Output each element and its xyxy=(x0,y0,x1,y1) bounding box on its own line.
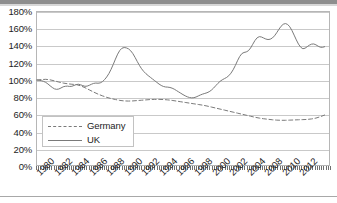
legend-item-germany: Germany xyxy=(43,118,133,133)
chart-legend: Germany UK xyxy=(42,116,134,147)
legend-label-germany: Germany xyxy=(87,120,125,131)
legend-item-uk: UK xyxy=(43,132,133,147)
x-axis-tick-labels: 1980198219841986198819901992199419961998… xyxy=(36,166,330,203)
series-line-uk xyxy=(37,24,325,98)
chart-figure: 0%20%40%60%80%100%120%140%160%180% 19801… xyxy=(0,0,337,203)
legend-swatch-uk xyxy=(48,135,82,145)
legend-label-uk: UK xyxy=(87,134,100,145)
y-axis-tick-label: 120% xyxy=(9,57,33,68)
y-axis-tick-label: 100% xyxy=(9,74,33,85)
y-axis-tick-label: 40% xyxy=(14,126,32,137)
x-axis-minor-tick xyxy=(330,166,331,170)
y-axis-tick-label: 0% xyxy=(19,161,32,172)
y-axis-tick-label: 180% xyxy=(9,6,33,17)
y-axis-tick-labels: 0%20%40%60%80%100%120%140%160%180% xyxy=(0,11,34,166)
series-line-germany xyxy=(37,79,325,120)
y-axis-tick-label: 160% xyxy=(9,23,33,34)
bottom-rule xyxy=(0,196,337,197)
y-axis-tick-label: 80% xyxy=(14,92,32,103)
top-edge-band-soft xyxy=(0,4,337,6)
legend-swatch-germany xyxy=(48,121,82,131)
y-axis-tick-label: 20% xyxy=(14,143,32,154)
y-axis-tick-label: 140% xyxy=(9,40,33,51)
y-axis-tick-label: 60% xyxy=(14,109,32,120)
